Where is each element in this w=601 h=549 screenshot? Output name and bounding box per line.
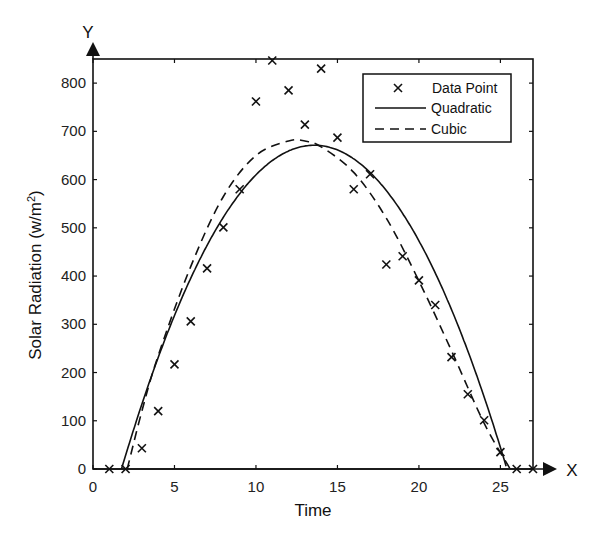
legend: Data Point Quadratic Cubic	[363, 74, 511, 142]
data-point-x-icon	[415, 276, 423, 284]
y-tick-label: 300	[61, 315, 86, 332]
data-point-x-icon	[382, 260, 390, 268]
y-axis-title-close: )	[26, 190, 45, 196]
data-point-x-icon	[399, 252, 407, 260]
x-axis-title: Time	[294, 501, 331, 520]
x-axis-arrow-icon	[543, 462, 557, 476]
x-tick-label: 5	[170, 478, 178, 495]
data-point-x-icon	[350, 185, 358, 193]
y-axis-title: Solar Radiation (w/m2)	[25, 190, 45, 360]
y-axis-title-main: Solar Radiation (w/m	[26, 202, 45, 360]
cubic-curve	[127, 140, 510, 469]
y-tick-label: 400	[61, 267, 86, 284]
legend-label-data-point: Data Point	[432, 80, 497, 96]
data-point-x-icon	[431, 301, 439, 309]
x-tick-label: 25	[492, 478, 509, 495]
y-axis-arrow-label: Y	[82, 23, 93, 42]
x-axis-arrow-label: X	[566, 461, 577, 480]
y-tick-label: 600	[61, 171, 86, 188]
y-axis-arrow-icon	[86, 42, 100, 56]
data-point-x-icon	[317, 65, 325, 73]
y-tick-label: 500	[61, 219, 86, 236]
data-point-x-icon	[252, 97, 260, 105]
data-point-x-icon	[203, 264, 211, 272]
x-tick-label: 0	[89, 478, 97, 495]
y-tick-label: 200	[61, 364, 86, 381]
data-point-x-icon	[219, 223, 227, 231]
data-point-x-icon	[170, 360, 178, 368]
fit-curves	[122, 140, 511, 469]
legend-label-quadratic: Quadratic	[431, 100, 492, 116]
legend-label-cubic: Cubic	[431, 121, 467, 137]
y-tick-label: 700	[61, 122, 86, 139]
y-tick-label: 0	[78, 460, 86, 477]
x-tick-label: 10	[248, 478, 265, 495]
data-point-x-icon	[187, 317, 195, 325]
x-tick-label: 15	[329, 478, 346, 495]
data-point-x-icon	[285, 86, 293, 94]
data-point-x-icon	[333, 134, 341, 142]
data-point-x-icon	[154, 407, 162, 415]
y-tick-label: 800	[61, 74, 86, 91]
data-point-x-icon	[301, 121, 309, 129]
data-point-x-icon	[268, 56, 276, 64]
y-tick-label: 100	[61, 412, 86, 429]
quadratic-curve	[122, 145, 507, 469]
x-tick-label: 20	[411, 478, 428, 495]
data-point-x-icon	[138, 444, 146, 452]
solar-radiation-chart: 05101520250100200300400500600700800 Y X …	[0, 0, 601, 549]
